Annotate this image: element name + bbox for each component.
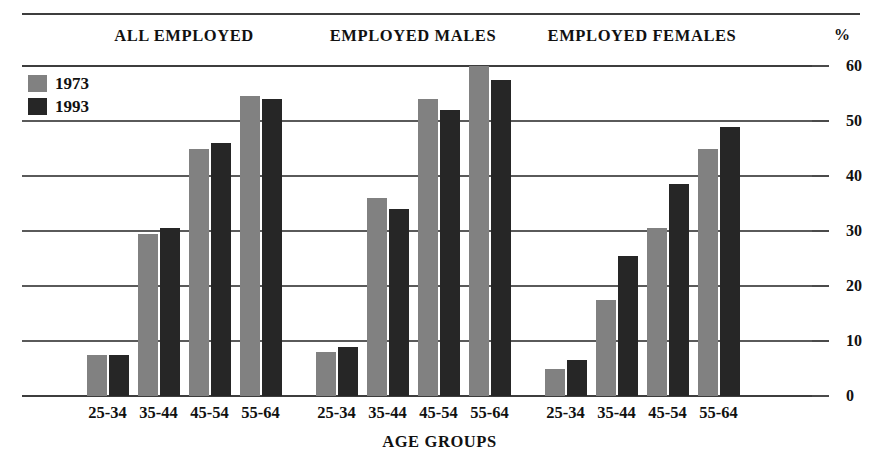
y-tick-label-10: 10 xyxy=(846,332,862,350)
bar-employed-males-25-34-1993 xyxy=(338,347,358,397)
panel-heading-employed-females: EMPLOYED FEMALES xyxy=(545,26,740,46)
legend-label-1993: 1993 xyxy=(55,98,89,115)
panel-heading-employed-males: EMPLOYED MALES xyxy=(316,26,511,46)
y-tick-label-50: 50 xyxy=(846,112,862,130)
y-tick-mark-0 xyxy=(812,395,829,397)
y-tick-mark-40 xyxy=(812,175,829,177)
y-tick-label-40: 40 xyxy=(846,167,862,185)
bar-all-employed-35-44-1993 xyxy=(160,228,180,396)
y-tick-mark-10 xyxy=(812,340,829,342)
y-tick-mark-20 xyxy=(812,285,829,287)
bar-employed-males-25-34-1973 xyxy=(316,352,336,396)
plot-area: 0102030405060 xyxy=(22,66,812,396)
y-axis-percent-symbol: % xyxy=(834,26,850,44)
y-tick-label-0: 0 xyxy=(846,387,854,405)
y-tick-mark-30 xyxy=(812,230,829,232)
bar-employed-males-45-54-1993 xyxy=(440,110,460,396)
bar-all-employed-55-64-1993 xyxy=(262,99,282,396)
legend-swatch-1973 xyxy=(28,75,47,92)
bar-employed-females-55-64-1993 xyxy=(720,127,740,397)
panel-heading-all-employed: ALL EMPLOYED xyxy=(87,26,282,46)
legend-swatch-1993 xyxy=(28,98,47,115)
y-tick-mark-60 xyxy=(812,65,829,67)
y-tick-label-30: 30 xyxy=(846,222,862,240)
bar-employed-females-35-44-1993 xyxy=(618,256,638,396)
bar-employed-females-55-64-1973 xyxy=(698,149,718,397)
legend-item-1993: 1993 xyxy=(28,95,89,117)
chart-figure: %ALL EMPLOYEDEMPLOYED MALESEMPLOYED FEMA… xyxy=(0,0,879,469)
bar-employed-males-55-64-1993 xyxy=(491,80,511,396)
bar-all-employed-45-54-1973 xyxy=(189,149,209,397)
bar-all-employed-45-54-1993 xyxy=(211,143,231,396)
bar-employed-females-25-34-1993 xyxy=(567,360,587,396)
bar-employed-males-35-44-1973 xyxy=(367,198,387,396)
bar-employed-females-25-34-1973 xyxy=(545,369,565,397)
bar-all-employed-25-34-1993 xyxy=(109,355,129,396)
bar-all-employed-25-34-1973 xyxy=(87,355,107,396)
x-tick-label-all-employed-55-64: 55-64 xyxy=(230,403,292,423)
bar-all-employed-55-64-1973 xyxy=(240,96,260,396)
bar-employed-females-35-44-1973 xyxy=(596,300,616,396)
x-axis-tick-labels: 25-3435-4445-5455-6425-3435-4445-5455-64… xyxy=(22,403,812,429)
bar-employed-females-45-54-1993 xyxy=(669,184,689,396)
bar-employed-males-55-64-1973 xyxy=(469,66,489,396)
bar-employed-males-45-54-1973 xyxy=(418,99,438,396)
x-axis-title: AGE GROUPS xyxy=(0,432,879,452)
bar-all-employed-35-44-1973 xyxy=(138,234,158,396)
chart-legend: 1973 1993 xyxy=(28,72,89,118)
y-tick-label-20: 20 xyxy=(846,277,862,295)
x-tick-label-employed-males-55-64: 55-64 xyxy=(459,403,521,423)
y-tick-label-60: 60 xyxy=(846,57,862,75)
panel-headings-row: %ALL EMPLOYEDEMPLOYED MALESEMPLOYED FEMA… xyxy=(22,26,860,54)
y-tick-mark-50 xyxy=(812,120,829,122)
legend-label-1973: 1973 xyxy=(55,75,89,92)
gridline-60 xyxy=(22,65,812,67)
bar-employed-males-35-44-1993 xyxy=(389,209,409,396)
legend-item-1973: 1973 xyxy=(28,72,89,94)
bar-employed-females-45-54-1973 xyxy=(647,228,667,396)
top-divider-rule xyxy=(22,13,860,15)
x-tick-label-employed-females-55-64: 55-64 xyxy=(688,403,750,423)
